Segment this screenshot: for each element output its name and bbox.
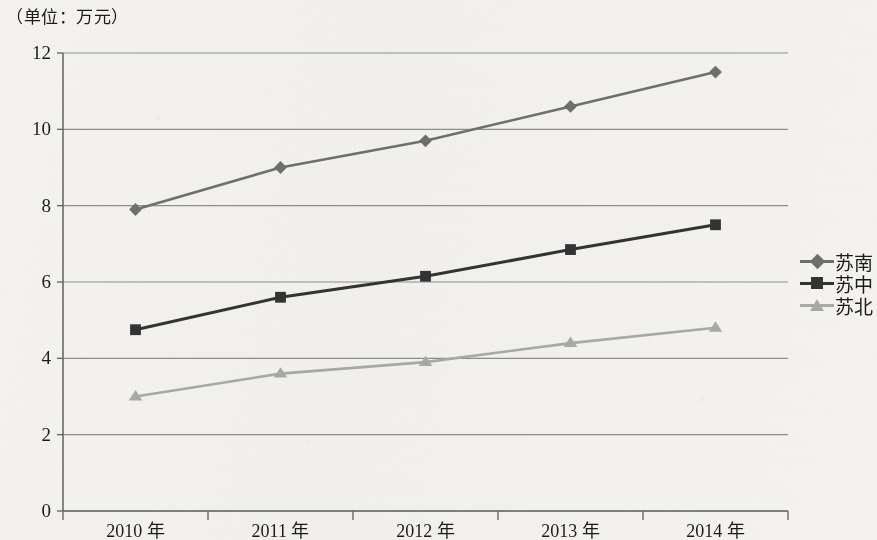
y-axis-tick-label: 10 xyxy=(11,118,51,140)
series-point-2-4 xyxy=(709,321,723,331)
y-axis-tick-label: 6 xyxy=(11,271,51,293)
x-axis-tick-label: 2012 年 xyxy=(396,516,455,540)
y-axis-tick-label: 0 xyxy=(11,500,51,522)
line-chart: 0246810122010 年2011 年2012 年2013 年2014 年 xyxy=(0,0,877,540)
y-axis-tick-label: 8 xyxy=(11,195,51,217)
y-axis-tick-label: 12 xyxy=(11,42,51,64)
series-point-0-0 xyxy=(129,203,142,216)
x-axis-tick-label: 2011 年 xyxy=(252,516,310,540)
series-point-1-4 xyxy=(710,219,721,230)
y-axis-tick-label: 4 xyxy=(11,347,51,369)
chart-canvas xyxy=(0,0,877,540)
legend-item-subei[interactable]: 苏北 xyxy=(800,294,873,316)
series-point-1-3 xyxy=(565,244,576,255)
series-point-1-2 xyxy=(420,271,431,282)
series-point-0-4 xyxy=(709,66,722,79)
series-point-1-0 xyxy=(130,324,141,335)
triangle-marker-icon xyxy=(800,296,834,314)
x-axis-tick-label: 2014 年 xyxy=(686,516,745,540)
diamond-marker-icon xyxy=(800,252,834,270)
series-point-1-1 xyxy=(275,292,286,303)
series-point-0-2 xyxy=(419,134,432,147)
y-axis-tick-label: 2 xyxy=(11,424,51,446)
chart-unit-title: （单位：万元） xyxy=(6,3,129,28)
x-axis-tick-label: 2013 年 xyxy=(541,516,600,540)
chart-legend: 苏南 苏中 苏北 xyxy=(800,250,873,316)
x-axis-tick-label: 2010 年 xyxy=(106,516,165,540)
series-point-0-3 xyxy=(564,100,577,113)
legend-label-subei: 苏北 xyxy=(835,292,873,319)
series-point-0-1 xyxy=(274,161,287,174)
square-marker-icon xyxy=(800,274,834,292)
